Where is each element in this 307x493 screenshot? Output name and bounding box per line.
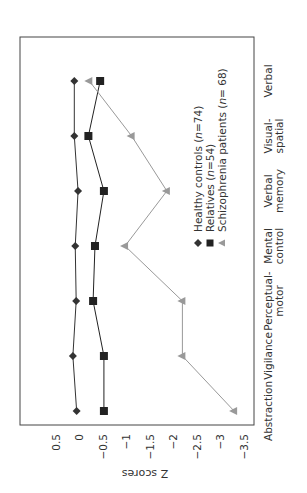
category-label: motor [273,285,285,317]
triangle-marker-icon [162,187,170,195]
diamond-marker-icon [72,297,80,305]
triangle-marker-icon [84,77,92,85]
z-tick-label: −2.5 [191,434,203,460]
category-label: memory [273,169,285,213]
z-axis-ticks: 0.50−0.5−1−1.5−2−2.5−3−3.5 [50,434,250,460]
diamond-marker-icon [71,242,79,250]
legend-square-icon [207,240,214,247]
z-tick-label: −3 [214,434,226,449]
diamond-marker-icon [73,407,81,415]
legend-label: Healthy controls (n=74) [192,106,204,232]
triangle-marker-icon [120,242,128,250]
z-tick-label: −0.5 [97,434,109,460]
legend-diamond-icon [194,239,202,247]
z-score-line-chart: 0.50−0.5−1−1.5−2−2.5−3−3.5 Z scores Abst… [0,0,307,493]
square-marker-icon [100,187,108,195]
legend: Healthy controls (n=74)Relatives (n=54)S… [192,68,228,247]
category-label: Abstraction [262,381,274,441]
triangle-marker-icon [127,132,135,140]
square-marker-icon [91,242,99,250]
legend-label: Relatives (n=54) [204,144,216,232]
z-tick-label: 0.5 [50,434,62,451]
square-marker-icon [100,407,108,415]
diamond-marker-icon [70,132,78,140]
z-tick-label: −3.5 [238,434,250,460]
category-label: Verbal [262,64,274,97]
z-tick-label: −2 [167,434,179,449]
category-label: Vigilance [262,332,274,380]
category-label: spatial [273,119,285,154]
square-marker-icon [100,352,108,360]
z-tick-label: 0 [73,434,85,441]
z-tick-label: −1.5 [144,434,156,460]
category-labels: AbstractionVigilancePerceptual-motorMent… [262,64,285,441]
square-marker-icon [89,297,97,305]
diamond-marker-icon [74,187,82,195]
category-label: control [273,228,285,264]
legend-label: Schizophrenia patients (n= 68) [216,68,228,232]
diamond-marker-icon [69,352,77,360]
square-marker-icon [96,77,104,85]
z-tick-label: −1 [120,434,132,449]
diamond-marker-icon [70,77,78,85]
square-marker-icon [84,132,92,140]
triangle-marker-icon [177,352,185,360]
triangle-marker-icon [229,407,237,415]
triangle-marker-icon [177,297,185,305]
z-axis-label: Z scores [122,467,169,480]
legend-triangle-icon [218,240,225,247]
